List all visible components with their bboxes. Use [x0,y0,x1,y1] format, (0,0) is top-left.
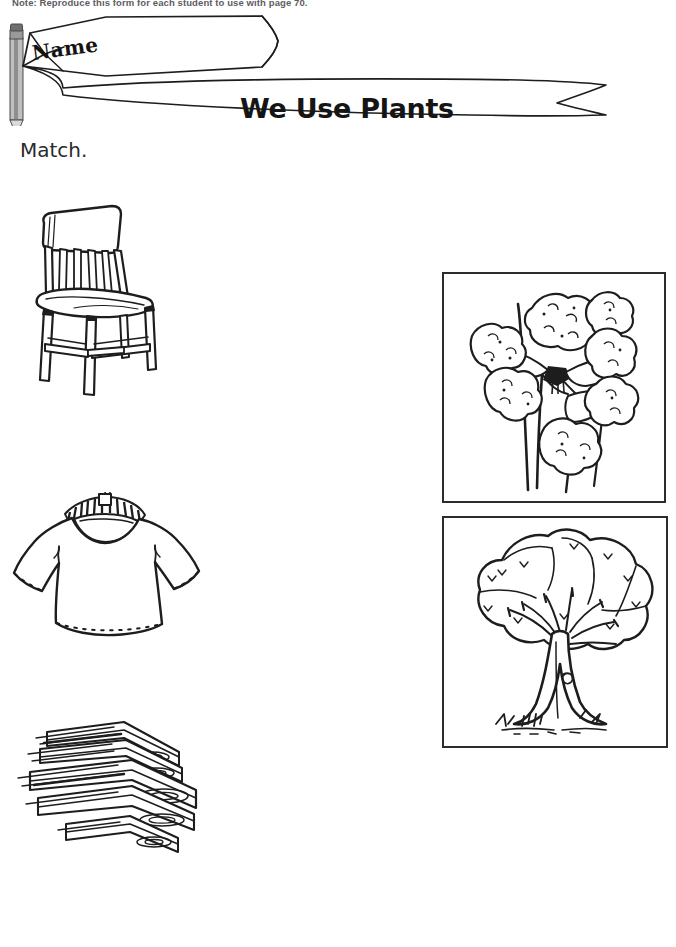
cotton-plant-icon [444,274,664,501]
wooden-chair-icon [26,198,176,403]
tree-icon [444,518,666,746]
tree-box [442,516,668,748]
chair-illustration [26,198,176,403]
t-shirt-on-hanger-icon [2,492,202,662]
directions-text: Match. [20,138,87,162]
reproduce-note: Note: Reproduce this form for each stude… [12,0,308,8]
worksheet-page: Note: Reproduce this form for each stude… [0,0,676,947]
lumber-illustration [14,716,214,876]
stacked-lumber-icon [14,716,214,876]
shirt-illustration [2,492,202,662]
cotton-plant-box [442,272,666,503]
page-title: We Use Plants [0,93,676,124]
